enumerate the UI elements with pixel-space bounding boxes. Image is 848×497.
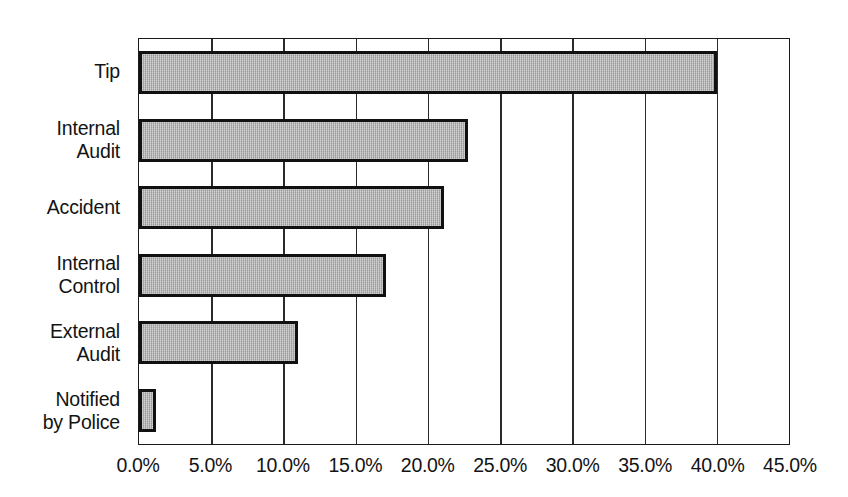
category-label: InternalAudit [0,106,130,174]
bar-slot [139,39,789,107]
x-tick-label: 40.0% [691,452,745,478]
category-label: ExternalAudit [0,309,130,377]
bar-slot [139,242,789,310]
category-label-line: Control [59,275,120,298]
category-axis: TipInternalAuditAccidentInternalControlE… [0,38,130,445]
bar [139,389,156,432]
category-label: InternalControl [0,241,130,309]
category-label-line: Accident [47,196,120,219]
category-label-line: External [50,320,120,343]
category-label-line: Notified [55,388,120,411]
category-label-line: Audit [77,343,120,366]
bar [139,51,717,94]
bar-slot [139,309,789,377]
bar [139,254,386,297]
x-tick-label: 35.0% [618,452,672,478]
category-label: Accident [0,174,130,242]
category-label: Tip [0,38,130,106]
x-tick-label: 0.0% [116,452,159,478]
category-label-line: Audit [77,140,120,163]
x-tick-label: 10.0% [256,452,310,478]
bars-layer [139,39,789,444]
bar-chart: TipInternalAuditAccidentInternalControlE… [0,0,848,497]
category-label-line: Tip [94,60,120,83]
bar-slot [139,174,789,242]
x-tick-label: 25.0% [473,452,527,478]
bar [139,186,444,229]
x-tick-label: 30.0% [546,452,600,478]
bar-slot [139,377,789,445]
bar-slot [139,107,789,175]
category-label-line: by Police [43,411,120,434]
plot-area [138,38,790,445]
category-label-line: Internal [57,252,120,275]
x-tick-label: 20.0% [401,452,455,478]
category-label-line: Internal [57,117,120,140]
category-label: Notifiedby Police [0,377,130,445]
value-axis: 0.0%5.0%10.0%15.0%20.0%25.0%30.0%35.0%40… [138,452,790,484]
x-tick-label: 15.0% [328,452,382,478]
bar [139,321,298,364]
bar [139,119,468,162]
x-tick-label: 5.0% [189,452,232,478]
x-tick-label: 45.0% [763,452,817,478]
